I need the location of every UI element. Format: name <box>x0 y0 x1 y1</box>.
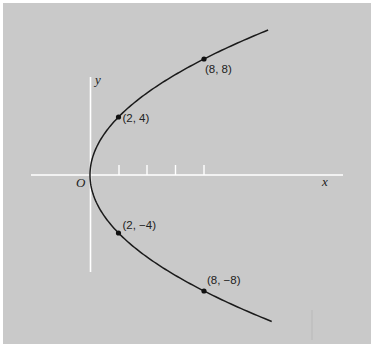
point-marker <box>201 56 206 61</box>
point-marker <box>201 288 206 293</box>
point-label: (8, 8) <box>205 63 232 75</box>
origin-label: O <box>76 175 86 190</box>
point-label: (2, 4) <box>123 112 150 124</box>
point-label: (8, −8) <box>207 274 241 286</box>
parabola-figure: (8, 8)(2, 4)(2, −4)(8, −8) y x O <box>0 0 377 354</box>
parabola-plot: (8, 8)(2, 4)(2, −4)(8, −8) y x O <box>0 0 377 354</box>
point-marker <box>116 114 121 119</box>
y-axis-label: y <box>93 72 101 87</box>
point-label: (2, −4) <box>123 219 157 231</box>
plot-panel <box>3 3 371 344</box>
point-marker <box>116 230 121 235</box>
x-axis-label: x <box>321 174 328 189</box>
